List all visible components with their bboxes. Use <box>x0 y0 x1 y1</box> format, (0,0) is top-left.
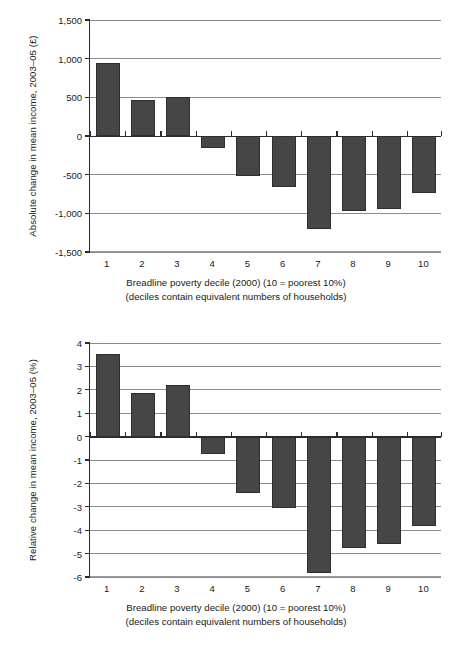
y-axis-tick-mark <box>85 174 90 175</box>
y-axis-tick-label: -5 <box>74 548 82 559</box>
y-axis-tick-mark <box>85 483 90 484</box>
x-axis-tick-mark <box>336 432 337 437</box>
bar <box>166 97 190 136</box>
x-axis-tick-label: 1 <box>104 583 109 594</box>
bar <box>201 437 225 455</box>
x-axis-tick-mark <box>125 432 126 437</box>
y-axis-tick-mark <box>85 58 90 59</box>
x-axis-tick-mark <box>196 432 197 437</box>
x-axis-tick-label: 6 <box>280 583 285 594</box>
gridline <box>90 389 441 390</box>
bar <box>342 136 366 211</box>
gridline <box>90 343 441 344</box>
y-axis-title: Relative change in mean income, 2003–05 … <box>27 343 38 577</box>
y-axis-tick-label: -500 <box>63 169 82 180</box>
bar <box>201 136 225 148</box>
x-axis-tick-label: 4 <box>210 258 215 269</box>
y-axis-tick-mark <box>85 366 90 367</box>
y-axis-tick-mark <box>85 97 90 98</box>
y-axis-title: Absolute change in mean income, 2003–05 … <box>27 20 38 252</box>
x-axis-tick-label: 10 <box>418 583 429 594</box>
bar <box>236 136 260 176</box>
y-axis-tick-mark <box>85 213 90 214</box>
bar <box>412 136 436 193</box>
plot-area <box>89 20 441 252</box>
y-axis-tick-label: 0 <box>77 131 82 142</box>
x-axis-tick-label: 3 <box>174 583 179 594</box>
gridline <box>90 252 441 253</box>
y-axis-tick-mark <box>85 459 90 460</box>
bar <box>96 63 120 136</box>
y-axis-tick-label: 1 <box>77 408 82 419</box>
gridline <box>90 366 441 367</box>
x-axis-tick-label: 8 <box>350 258 355 269</box>
y-axis-tick-label: -1,000 <box>55 208 82 219</box>
x-axis-tick-mark <box>372 131 373 136</box>
y-axis-tick-label: 0 <box>77 431 82 442</box>
y-axis-tick-mark <box>85 342 90 343</box>
x-axis-tick-label: 6 <box>280 258 285 269</box>
y-axis-tick-label: -2 <box>74 478 82 489</box>
x-axis-tick-mark <box>266 432 267 437</box>
x-axis-tick-mark <box>90 432 91 437</box>
y-axis-tick-mark <box>85 19 90 20</box>
chart-relative-change: Relative change in mean income, 2003–05 … <box>0 322 472 661</box>
bar <box>342 437 366 548</box>
x-axis-caption-line-2: (deciles contain equivalent numbers of h… <box>0 290 472 304</box>
x-axis-caption-line-2: (deciles contain equivalent numbers of h… <box>0 615 472 629</box>
gridline <box>90 553 441 554</box>
bar <box>131 100 155 136</box>
x-axis-tick-label: 5 <box>245 258 250 269</box>
x-axis-caption: Breadline poverty decile (2000) (10 = po… <box>0 601 472 628</box>
x-axis-tick-label: 10 <box>418 258 429 269</box>
x-axis-tick-label: 3 <box>174 258 179 269</box>
gridline <box>90 213 441 214</box>
bar <box>377 136 401 209</box>
y-axis-tick-label: 4 <box>77 338 82 349</box>
bar <box>307 437 331 574</box>
y-axis-tick-mark <box>85 530 90 531</box>
y-axis-tick-label: -1,500 <box>55 247 82 258</box>
y-axis-tick-label: 1,000 <box>58 53 82 64</box>
x-axis-tick-mark <box>160 432 161 437</box>
y-axis-tick-label: 500 <box>66 92 82 103</box>
x-axis-tick-mark <box>160 131 161 136</box>
bar <box>377 437 401 545</box>
chart-absolute-change: Absolute change in mean income, 2003–05 … <box>0 0 472 330</box>
gridline <box>90 577 441 578</box>
x-axis-tick-mark <box>441 131 442 136</box>
x-axis-tick-mark <box>441 432 442 437</box>
y-axis-tick-mark <box>85 553 90 554</box>
x-axis-tick-mark <box>90 131 91 136</box>
x-axis-tick-label: 7 <box>315 258 320 269</box>
x-axis-tick-mark <box>196 131 197 136</box>
x-axis-tick-label: 7 <box>315 583 320 594</box>
x-axis-tick-mark <box>336 131 337 136</box>
x-axis-tick-mark <box>407 432 408 437</box>
y-axis-tick-label: -3 <box>74 501 82 512</box>
x-axis-tick-mark <box>407 131 408 136</box>
y-axis-tick-label: 3 <box>77 361 82 372</box>
y-axis-tick-label: -1 <box>74 455 82 466</box>
y-axis-tick-label: 2 <box>77 384 82 395</box>
x-axis-tick-mark <box>372 432 373 437</box>
y-axis-tick-label: -4 <box>74 525 82 536</box>
y-axis-tick-mark <box>85 576 90 577</box>
gridline <box>90 58 441 59</box>
bar <box>166 385 190 436</box>
bar <box>96 354 120 437</box>
x-axis-tick-mark <box>231 131 232 136</box>
x-axis-tick-label: 2 <box>139 258 144 269</box>
y-axis-tick-mark <box>85 506 90 507</box>
x-axis-tick-label: 4 <box>210 583 215 594</box>
bar <box>412 437 436 526</box>
x-axis-tick-label: 2 <box>139 583 144 594</box>
x-axis-tick-mark <box>125 131 126 136</box>
gridline <box>90 20 441 21</box>
x-axis-tick-mark <box>266 131 267 136</box>
x-axis-tick-label: 8 <box>350 583 355 594</box>
bar <box>236 437 260 493</box>
x-axis-tick-label: 9 <box>386 258 391 269</box>
y-axis-tick-mark <box>85 413 90 414</box>
plot-area <box>89 343 441 577</box>
